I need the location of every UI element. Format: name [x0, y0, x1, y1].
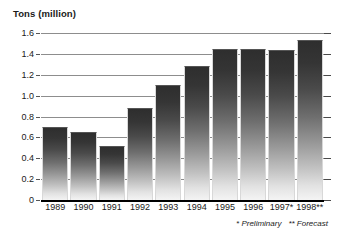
y-tick-mark [36, 75, 40, 76]
right-axis-tick [324, 158, 331, 159]
bar [155, 85, 181, 200]
bar [240, 49, 266, 200]
y-tick-label: 1.4 [8, 50, 34, 59]
y-tick-mark [36, 137, 40, 138]
y-tick-label: 0.2 [8, 175, 34, 184]
chart-title: Tons (million) [13, 8, 76, 19]
bar-chart: Tons (million) 00.20.40.60.81.01.21.41.6… [0, 0, 350, 238]
right-axis-tick [324, 137, 331, 138]
bars-container [41, 33, 324, 200]
y-tick-mark [36, 117, 40, 118]
x-tick-label: 1997* [267, 203, 295, 212]
right-axis-ticks [324, 33, 334, 200]
y-tick-label: 1.0 [8, 92, 34, 101]
x-axis-labels: 198919901991199219931994199519961997*199… [41, 203, 324, 217]
right-axis-tick [324, 179, 331, 180]
footnote-forecast: ** Forecast [288, 219, 328, 228]
right-axis-tick [324, 33, 331, 34]
x-tick-label: 1996 [239, 203, 267, 212]
x-tick-label: 1993 [154, 203, 182, 212]
y-tick-mark [36, 200, 40, 201]
y-tick-mark [36, 54, 40, 55]
y-tick-label: 0 [8, 196, 34, 205]
x-tick-label: 1991 [98, 203, 126, 212]
y-tick-label: 0.4 [8, 154, 34, 163]
y-tick-mark [36, 179, 40, 180]
bar [99, 146, 125, 200]
bar [212, 49, 238, 200]
bar [268, 50, 294, 200]
x-tick-label: 1992 [126, 203, 154, 212]
y-tick-mark [36, 96, 40, 97]
y-tick-mark [36, 33, 40, 34]
right-axis-tick [324, 117, 331, 118]
right-axis-tick [324, 75, 331, 76]
footnote-preliminary: * Preliminary [236, 219, 281, 228]
bar [127, 108, 153, 200]
bar [297, 40, 323, 200]
chart-footnotes: * Preliminary** Forecast [236, 219, 328, 228]
right-axis-tick [324, 54, 331, 55]
x-tick-label: 1994 [183, 203, 211, 212]
y-tick-label: 0.8 [8, 113, 34, 122]
right-axis-tick [324, 200, 331, 201]
y-tick-mark [36, 158, 40, 159]
bar [70, 132, 96, 200]
x-tick-label: 1990 [69, 203, 97, 212]
y-tick-label: 1.2 [8, 71, 34, 80]
x-tick-label: 1989 [41, 203, 69, 212]
right-axis-tick [324, 96, 331, 97]
bar [184, 66, 210, 200]
bar [42, 127, 68, 200]
y-tick-label: 0.6 [8, 133, 34, 142]
x-tick-label: 1998** [296, 203, 324, 212]
y-tick-label: 1.6 [8, 29, 34, 38]
x-tick-label: 1995 [211, 203, 239, 212]
